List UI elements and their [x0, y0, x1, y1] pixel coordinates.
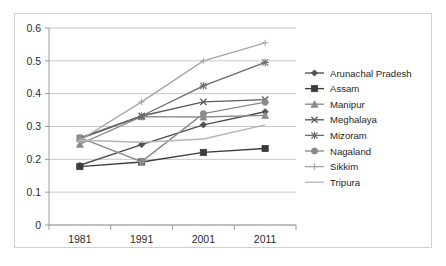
legend-label: Nagaland: [330, 146, 371, 157]
legend-label: Manipur: [330, 99, 365, 110]
legend-label: Mizoram: [330, 130, 367, 141]
y-tick-labels: 00.10.20.30.40.50.6: [26, 22, 41, 231]
data-point-marker: [261, 59, 268, 66]
y-tick-label: 0: [35, 219, 41, 231]
legend-item-meghalaya[interactable]: Meghalaya: [305, 114, 378, 125]
legend-item-sikkim[interactable]: Sikkim: [305, 161, 358, 172]
legend-marker: [311, 86, 317, 92]
line-chart-plot: 00.10.20.30.40.50.6 1981199120012011 Aru…: [0, 0, 446, 266]
legend-label: Arunachal Pradesh: [330, 68, 412, 79]
legend-item-nagaland[interactable]: Nagaland: [305, 146, 371, 157]
x-tick-label: 2001: [192, 233, 216, 245]
legend-item-assam[interactable]: Assam: [305, 83, 359, 94]
legend-label: Tripura: [330, 177, 361, 188]
data-point-marker: [200, 111, 206, 117]
y-tick-label: 0.2: [26, 153, 41, 165]
data-point-marker: [262, 99, 268, 105]
legend-item-manipur[interactable]: Manipur: [305, 99, 365, 110]
series-line: [80, 148, 265, 166]
series-sikkim: [77, 40, 268, 144]
data-point-marker: [200, 149, 206, 155]
data-point-marker: [139, 159, 145, 165]
chart-container: 00.10.20.30.40.50.6 1981199120012011 Aru…: [0, 0, 446, 266]
data-point-marker: [77, 163, 83, 169]
legend-label: Sikkim: [330, 161, 358, 172]
series-line: [80, 43, 265, 141]
y-tick-label: 0.4: [26, 87, 41, 99]
legend-item-mizoram[interactable]: Mizoram: [305, 130, 367, 141]
data-point-marker: [262, 145, 268, 151]
series-assam: [77, 145, 268, 169]
data-series: [76, 40, 269, 170]
legend-item-tripura[interactable]: Tripura: [305, 177, 361, 188]
legend-marker: [311, 70, 317, 76]
data-point-marker: [138, 112, 145, 119]
x-tick-label: 1991: [130, 233, 154, 245]
legend-label: Meghalaya: [330, 114, 378, 125]
data-point-marker: [200, 82, 207, 89]
series-line: [80, 115, 265, 144]
x-tick-label: 1981: [68, 233, 92, 245]
legend-marker: [311, 132, 318, 139]
legend-marker: [311, 164, 317, 170]
chart-legend: Arunachal PradeshAssamManipurMeghalayaMi…: [305, 68, 412, 188]
y-tick-label: 0.3: [26, 120, 41, 132]
legend-item-arunachal-pradesh[interactable]: Arunachal Pradesh: [305, 68, 412, 79]
x-tick-label: 2011: [254, 233, 277, 245]
data-point-marker: [262, 40, 268, 46]
x-axis: [49, 225, 296, 230]
y-tick-label: 0.1: [26, 186, 41, 198]
y-axis: [45, 28, 49, 225]
data-point-marker: [200, 122, 206, 128]
y-tick-label: 0.5: [26, 55, 41, 67]
x-tick-labels: 1981199120012011: [68, 233, 276, 245]
legend-marker: [311, 148, 317, 154]
legend-label: Assam: [330, 83, 359, 94]
y-tick-label: 0.6: [26, 22, 41, 34]
